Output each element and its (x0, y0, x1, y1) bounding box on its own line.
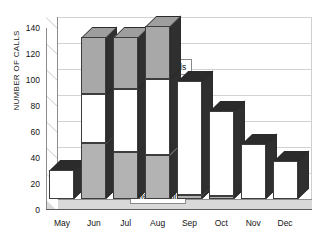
bar-column-jun[interactable] (81, 17, 117, 210)
bar-front-face (273, 161, 298, 199)
bar-segment-oct-public-calls[interactable] (209, 111, 245, 208)
bar-front-face (145, 79, 170, 154)
bar-column-jul[interactable] (113, 17, 149, 210)
x-axis-tick-dec: Dec (265, 218, 305, 228)
y-axis-tick-60: 60 (14, 128, 40, 137)
bar-column-sep[interactable] (177, 17, 213, 210)
y-axis-tick-20: 20 (14, 180, 40, 189)
bar-segment-jun-total-calls[interactable] (81, 37, 117, 105)
bar-front-face (81, 37, 106, 94)
y-axis-title: NUMBER OF CALLS (12, 1, 21, 141)
y-axis-tick-0: 0 (14, 206, 40, 215)
bar-segment-nov-public-calls[interactable] (241, 144, 277, 210)
bar-segment-jul-total-calls[interactable] (113, 37, 149, 100)
chart-container: NUMBER OF CALLS 140120100806040200 MayJu… (0, 0, 319, 236)
plot-area (46, 17, 312, 210)
y-axis-line-front (46, 28, 47, 210)
bar-segment-jul-public-calls[interactable] (113, 89, 149, 164)
bar-column-oct[interactable] (209, 17, 245, 210)
y-axis-tick-80: 80 (14, 102, 40, 111)
bar-front-face (209, 111, 234, 197)
bar-segment-may-public-calls[interactable] (49, 170, 85, 210)
bar-front-face (177, 81, 202, 195)
bar-segment-dec-public-calls[interactable] (273, 161, 309, 210)
y-axis-tick-100: 100 (14, 76, 40, 85)
bar-segment-sep-public-calls[interactable] (177, 81, 213, 206)
bar-column-aug[interactable] (145, 17, 181, 210)
bar-segment-aug-public-calls[interactable] (145, 79, 181, 165)
y-axis-tick-120: 120 (14, 50, 40, 59)
bar-front-face (241, 144, 266, 199)
bar-column-dec[interactable] (273, 17, 309, 210)
bar-front-face (113, 37, 138, 89)
y-axis-tick-40: 40 (14, 154, 40, 163)
bar-column-nov[interactable] (241, 17, 277, 210)
y-axis-tick-140: 140 (14, 24, 40, 33)
bar-front-face (145, 26, 170, 79)
bar-front-face (49, 170, 74, 199)
bar-segment-aug-total-calls[interactable] (145, 26, 181, 90)
bar-column-may[interactable] (49, 17, 85, 210)
